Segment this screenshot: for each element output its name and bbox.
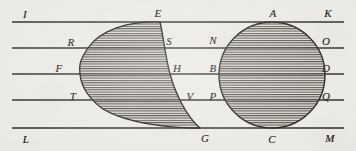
- label-C: C: [268, 134, 276, 145]
- right-hatched-region: [219, 22, 325, 128]
- label-V: V: [187, 91, 194, 102]
- figure-canvas: [0, 0, 356, 151]
- label-S: S: [166, 36, 172, 47]
- label-H: H: [173, 63, 181, 74]
- label-A: A: [270, 8, 277, 19]
- label-P: P: [210, 91, 217, 102]
- label-I: I: [23, 9, 27, 20]
- label-T: T: [70, 91, 76, 102]
- label-E: E: [155, 8, 162, 19]
- label-R: R: [68, 37, 75, 48]
- label-M: M: [325, 133, 334, 144]
- label-L: L: [23, 134, 29, 145]
- label-F: F: [56, 63, 63, 74]
- label-G: G: [201, 133, 209, 144]
- label-B: B: [210, 63, 217, 74]
- label-O: O: [322, 36, 330, 47]
- label-Q: Q: [322, 91, 330, 102]
- label-K: K: [324, 8, 332, 19]
- geometry-figure: IEAKRSNOFHBDTVPQLGCM: [0, 0, 356, 151]
- label-N: N: [209, 35, 217, 46]
- label-D: D: [322, 63, 330, 74]
